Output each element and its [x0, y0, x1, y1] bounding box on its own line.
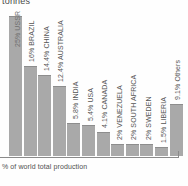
bar-label: 14.4% CHINA — [42, 26, 49, 71]
bar-group-india: 5.8% INDIA — [67, 8, 80, 156]
bar — [155, 147, 168, 156]
bar — [97, 132, 110, 156]
chart-title: tonnes — [2, 0, 30, 6]
bar-group-canada: 4.1% CANADA — [97, 8, 110, 156]
bar-chart: tonnes 25% USSR16% BRAZIL14.4% CHINA12.4… — [0, 0, 188, 186]
bar-label: 16% BRAZIL — [28, 21, 35, 62]
bar-group-ussr: 25% USSR — [9, 8, 22, 156]
bar-label: 1.5% LIBERIA — [159, 97, 166, 143]
bar-label: 2% SOUTH AFRICA — [130, 75, 137, 140]
bar-label: 5.8% INDIA — [71, 81, 78, 119]
bar-group-south-africa: 2% SOUTH AFRICA — [126, 8, 139, 156]
x-axis-label: % of world total production — [2, 163, 87, 170]
bar-group-venezuela: 2% VENEZUELA — [111, 8, 124, 156]
bar-group-usa: 5.4% USA — [82, 8, 95, 156]
bar-label: 5.4% USA — [86, 88, 93, 121]
bar-group-brazil: 16% BRAZIL — [24, 8, 37, 156]
bar-label: 25% USSR — [13, 11, 20, 47]
bar — [82, 125, 95, 156]
bar-group-china: 14.4% CHINA — [38, 8, 51, 156]
bar-group-australia: 12.4% AUSTRALIA — [53, 8, 66, 156]
bar — [53, 86, 66, 156]
bar-group-sweden: 2% SWEDEN — [140, 8, 153, 156]
bar-label: 2% VENEZUELA — [115, 85, 122, 140]
bar — [170, 104, 183, 156]
bar — [140, 144, 153, 156]
bar-group-liberia: 1.5% LIBERIA — [155, 8, 168, 156]
bar — [24, 66, 37, 156]
bar-label: 9.1% Others — [174, 60, 181, 100]
bar-label: 4.1% CANADA — [101, 80, 108, 128]
plot-area: 25% USSR16% BRAZIL14.4% CHINA12.4% AUSTR… — [0, 8, 188, 156]
x-axis-line — [0, 157, 179, 158]
bar — [126, 144, 139, 156]
bar-group-others: 9.1% Others — [170, 8, 183, 156]
bar — [38, 75, 51, 156]
bar-label: 2% SWEDEN — [144, 96, 151, 140]
bar — [67, 123, 80, 156]
bar-label: 12.4% AUSTRALIA — [57, 20, 64, 82]
bar — [111, 144, 124, 156]
x-axis-end-tick — [178, 151, 179, 158]
